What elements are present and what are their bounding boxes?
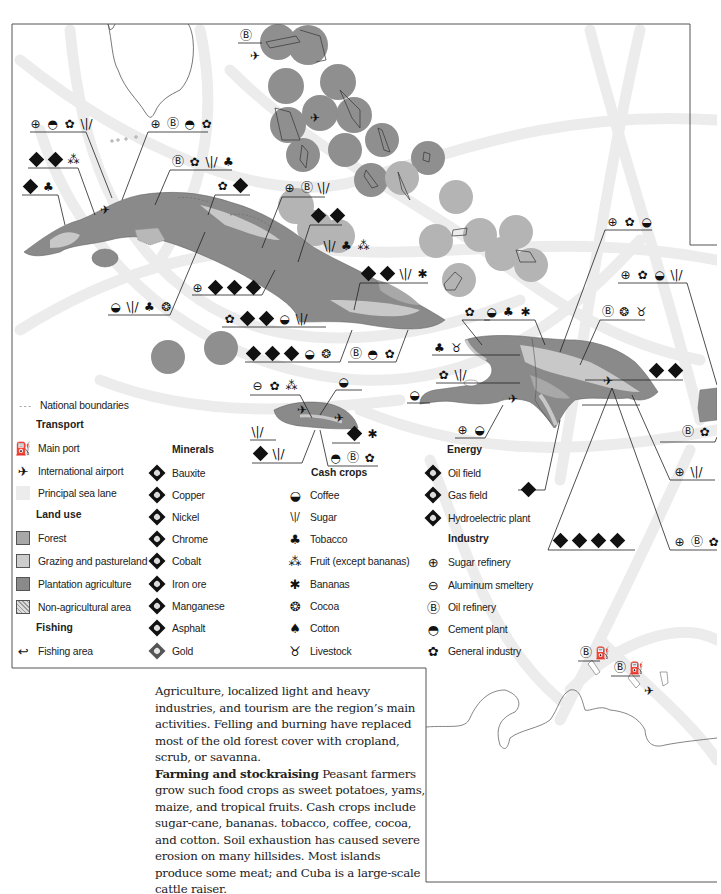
- cobalt-icon: [380, 266, 396, 282]
- sea-lane-swatch: [14, 485, 32, 501]
- livestock-icon: ♉: [449, 340, 464, 355]
- legend-chrome: Chrome: [148, 531, 212, 547]
- sugar-refinery-icon: ⊕: [672, 534, 687, 549]
- cocoa-icon: ❂: [319, 346, 334, 361]
- chrome-icon: [149, 531, 166, 548]
- legend-asphalt: Asphalt: [148, 620, 209, 636]
- bananas-icon: ✱: [365, 426, 380, 441]
- sugar-icon: \|/: [204, 154, 219, 169]
- legend-nickel: Nickel: [148, 509, 202, 525]
- tobacco-icon: ♣: [41, 179, 56, 194]
- sugar-icon: \|/: [286, 509, 304, 525]
- tobacco-icon: ♣: [221, 154, 236, 169]
- cluster-dr-south-minerals: [552, 533, 626, 548]
- aluminum-smeltery-icon: ⊖: [424, 577, 442, 593]
- cluster-haiti-north: ✿: [462, 304, 477, 319]
- cluster-puerto-rico-sugar: ⊕ \|/: [672, 464, 704, 479]
- legend-bananas: ✱ Bananas: [286, 576, 354, 592]
- cluster-santiago: Ⓑ ◓ ✿: [348, 346, 397, 361]
- sugar-icon: \|/: [322, 238, 337, 253]
- fruit-icon: ⁂: [66, 152, 81, 167]
- legend-hydroelectric: Hydroelectric plant: [424, 510, 539, 526]
- nickel-icon: [311, 208, 327, 224]
- airport-icon: ✈: [508, 393, 518, 405]
- general-industry-icon: ✿: [215, 178, 230, 193]
- oil-refinery-icon: Ⓑ: [165, 116, 180, 131]
- legend-forest: Forest: [14, 530, 69, 546]
- cluster-freeport: Ⓑ: [238, 28, 253, 43]
- cluster-camaguey-crops: \|/ ♣ ⁂: [322, 238, 371, 253]
- sugar-icon: \|/: [453, 367, 468, 382]
- sugar-icon: \|/: [125, 299, 140, 314]
- boundary-line-icon: - - -: [16, 397, 34, 413]
- puerto-rico: [698, 388, 717, 422]
- cluster-puerto-rico-industry: ⊕ Ⓑ ✿: [672, 534, 721, 549]
- copper-icon: [149, 487, 166, 504]
- cluster-kingston: ◓ Ⓑ ✿: [328, 450, 377, 465]
- general-industry-icon: ✿: [187, 154, 202, 169]
- non-agricultural-swatch: [14, 599, 32, 615]
- fishing-icon: ↩: [14, 643, 32, 659]
- main-port-icon: ⛽: [595, 645, 610, 660]
- coffee-icon: ◒: [407, 387, 422, 402]
- copper-icon: [29, 152, 45, 168]
- cluster-aruba: Ⓑ ⛽: [578, 645, 610, 660]
- coffee-icon: ◒: [108, 299, 123, 314]
- cluster-matanzas: Ⓑ ✿ \|/ ♣: [170, 154, 236, 169]
- bananas-icon: ✱: [518, 304, 533, 319]
- legend-heading-land-use: Land use: [36, 508, 81, 520]
- cluster-dr-cibao: Ⓑ ❂ ♉: [600, 304, 649, 319]
- copper-icon: [649, 363, 665, 379]
- coffee-icon: ◒: [277, 311, 292, 326]
- oil-refinery-icon: Ⓑ: [578, 645, 593, 660]
- chrome-icon: [572, 533, 588, 549]
- cluster-jamaica-sugar: \|/: [250, 424, 265, 439]
- cobalt-icon: [149, 553, 166, 570]
- fruit-icon: ⁂: [284, 378, 299, 393]
- nickel-icon: [361, 266, 377, 282]
- cluster-puerto-rico-south: Ⓑ ✿: [680, 424, 712, 439]
- legend-cotton: ♠ Cotton: [286, 620, 343, 636]
- legend-manganese: Manganese: [148, 598, 230, 614]
- oil-refinery-icon: Ⓑ: [680, 424, 695, 439]
- legend-gold: Gold: [148, 643, 196, 659]
- cement-plant-icon: ◓: [45, 116, 60, 131]
- sugar-refinery-icon: ⊕: [190, 280, 205, 295]
- general-industry-icon: ✿: [62, 116, 77, 131]
- oil-refinery-icon: Ⓑ: [170, 154, 185, 169]
- legend-national-boundaries: - - - National boundaries: [16, 397, 139, 413]
- sugar-icon: \|/: [294, 311, 309, 326]
- legend-fruit: ⁂ Fruit (except bananas): [286, 553, 421, 569]
- cluster-pinar-minerals: ⁂: [28, 152, 81, 167]
- grazing-swatch: [14, 553, 32, 569]
- legend-heading-energy: Energy: [447, 443, 482, 455]
- legend-fishing-area: ↩ Fishing area: [14, 643, 99, 659]
- cement-plant-icon: ◓: [182, 116, 197, 131]
- sugar-icon: \|/: [669, 267, 684, 282]
- cement-plant-icon: ◓: [424, 621, 442, 637]
- cluster-holguin: \|/ ✱: [360, 266, 430, 281]
- iron-ore-icon: [347, 426, 363, 442]
- main-port-icon: ⛽: [14, 440, 32, 456]
- fruit-icon: ⁂: [356, 238, 371, 253]
- legend-aluminum-smeltery: ⊖ Aluminum smeltery: [424, 577, 542, 593]
- cluster-jamaica-east: ✱: [346, 426, 380, 441]
- gold-icon: [668, 363, 684, 379]
- cluster-sierra-maestra: ◒ ❂: [245, 346, 334, 361]
- coffee-icon: ◒: [336, 374, 351, 389]
- sugar-refinery-icon: ⊕: [424, 554, 442, 570]
- legend-cocoa: ❂ Cocoa: [286, 598, 342, 614]
- legend-non-agricultural: Non-agricultural area: [14, 599, 141, 615]
- airport-icon: ✈: [603, 375, 613, 387]
- iron-ore-icon: [227, 280, 243, 296]
- copper-icon: [246, 346, 262, 362]
- cement-plant-icon: ◓: [328, 450, 343, 465]
- cuba: [24, 192, 445, 329]
- legend-oil-field: Oil field: [424, 465, 485, 481]
- legend-bauxite: Bauxite: [148, 465, 209, 481]
- copper-icon: [591, 533, 607, 549]
- gas-field-icon: [425, 487, 442, 504]
- iron-ore-icon: [149, 576, 166, 593]
- livestock-icon: ♉: [286, 643, 304, 659]
- coffee-icon: ◒: [639, 214, 654, 229]
